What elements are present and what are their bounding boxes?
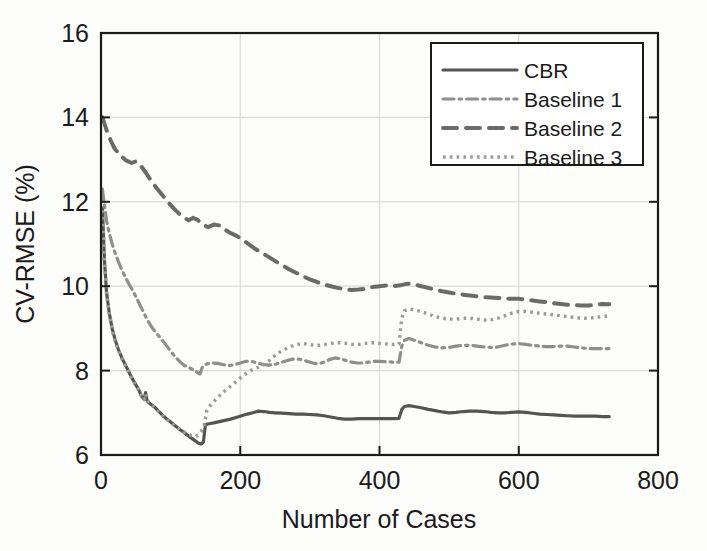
legend-label-baseline-2[interactable]: Baseline 2 bbox=[524, 117, 622, 140]
legend-label-baseline-1[interactable]: Baseline 1 bbox=[524, 88, 622, 111]
y-tick-label: 14 bbox=[61, 103, 89, 131]
x-tick-label: 800 bbox=[637, 466, 679, 494]
legend-label-cbr[interactable]: CBR bbox=[524, 59, 568, 82]
x-tick-label: 600 bbox=[498, 466, 540, 494]
legend-label-baseline-3[interactable]: Baseline 3 bbox=[524, 146, 622, 169]
x-tick-label: 0 bbox=[94, 466, 108, 494]
y-tick-label: 6 bbox=[75, 441, 89, 469]
x-axis-title: Number of Cases bbox=[282, 505, 477, 533]
x-tick-label: 200 bbox=[219, 466, 261, 494]
y-tick-label: 8 bbox=[75, 357, 89, 385]
x-tick-label: 400 bbox=[359, 466, 401, 494]
y-axis-title: CV-RMSE (%) bbox=[11, 164, 39, 324]
y-tick-label: 10 bbox=[61, 272, 89, 300]
legend[interactable]: CBRBaseline 1Baseline 2Baseline 3 bbox=[431, 43, 643, 169]
cv-rmse-line-chart: 02004006008006810121416 Number of Cases … bbox=[0, 0, 707, 551]
y-tick-label: 12 bbox=[61, 188, 89, 216]
y-tick-label: 16 bbox=[61, 19, 89, 47]
